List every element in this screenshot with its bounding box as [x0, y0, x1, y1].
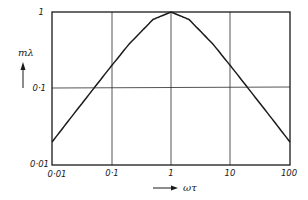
chart: 1 0·1 0·01 0·01 0·1 1 10 100 mλ ωτ — [0, 0, 308, 200]
y-tick-0.01: 0·01 — [30, 159, 49, 169]
y-axis-label: mλ — [18, 47, 34, 58]
x-tick-100: 100 — [281, 168, 297, 178]
arrow-up-icon — [21, 62, 26, 88]
gridline-y-0.1 — [52, 87, 290, 88]
x-tick-0.1: 0·1 — [105, 168, 119, 178]
x-tick-10: 10 — [225, 168, 236, 178]
x-tick-1: 1 — [168, 168, 173, 178]
x-tick-0.01: 0·01 — [48, 169, 67, 179]
arrow-right-icon — [153, 186, 178, 191]
grid — [52, 12, 290, 165]
x-axis-label: ωτ — [183, 182, 197, 193]
y-tick-0.1: 0·1 — [32, 83, 46, 93]
y-tick-1: 1 — [39, 7, 44, 17]
